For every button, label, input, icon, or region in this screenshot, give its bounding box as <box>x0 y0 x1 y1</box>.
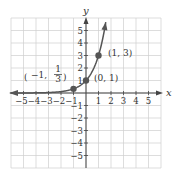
y-tick-label: 5 <box>78 26 83 36</box>
label-frac-num: 1 <box>55 64 61 74</box>
x-axis-label: x <box>166 87 172 98</box>
curve-arrow-left-icon <box>9 90 18 96</box>
data-point <box>70 86 76 92</box>
label-paren-close: ) <box>63 72 67 82</box>
axes: xy <box>10 5 172 168</box>
label-point-neg1: −1, <box>31 70 47 80</box>
y-tick-label: −4 <box>70 138 83 148</box>
x-tick-label: −4 <box>28 96 41 106</box>
x-tick-label: 1 <box>96 96 101 106</box>
label-frac-den: 3 <box>55 74 61 84</box>
y-tick-label: −5 <box>70 151 83 161</box>
x-tick-label: −5 <box>15 96 28 106</box>
x-tick-label: 4 <box>133 96 138 106</box>
data-point <box>83 77 89 83</box>
y-tick-label: 3 <box>78 51 83 61</box>
x-tick-label: −3 <box>40 96 53 106</box>
exponential-graph: xy −5−4−3−2−112345−5−4−3−2−112345 (−1, 1… <box>0 0 178 178</box>
label-point-1-3: (1, 3) <box>108 48 132 58</box>
y-tick-label: 4 <box>78 38 83 48</box>
x-axis-arrow-icon <box>156 91 163 96</box>
curve-arrow-up-icon <box>101 22 107 30</box>
x-tick-label: 3 <box>121 96 126 106</box>
y-tick-label: −3 <box>70 126 83 136</box>
y-axis-label: y <box>82 5 89 16</box>
y-tick-label: −2 <box>70 113 83 123</box>
label-paren-open: ( <box>24 72 28 82</box>
y-tick-label: 2 <box>78 63 83 73</box>
y-tick-label: −1 <box>70 101 83 111</box>
x-tick-label: −2 <box>53 96 66 106</box>
x-tick-label: 2 <box>108 96 113 106</box>
x-tick-label: 5 <box>146 96 151 106</box>
label-point-0-1: (0, 1) <box>94 73 118 83</box>
data-point <box>95 52 101 58</box>
plot-area: xy −5−4−3−2−112345−5−4−3−2−112345 (−1, 1… <box>0 0 178 178</box>
